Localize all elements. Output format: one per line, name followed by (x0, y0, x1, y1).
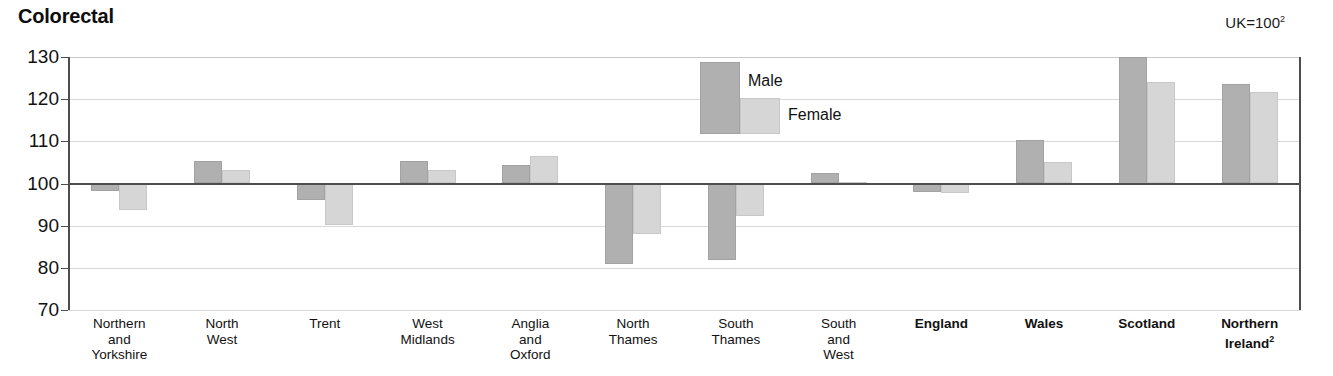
x-axis-label-line: Oxford (479, 347, 582, 363)
x-axis-label-line: and (479, 332, 582, 348)
y-axis-line-right (1299, 57, 1301, 310)
x-axis-label-line: North (171, 316, 274, 332)
x-axis-label: Wales (993, 316, 1096, 332)
plot-area (68, 57, 1301, 310)
x-axis-label: SouthandWest (787, 316, 890, 363)
x-axis-label-line: Northern (68, 316, 171, 332)
x-axis-label-line: and (68, 332, 171, 348)
gridline-80 (68, 268, 1301, 269)
x-axis-label-line: Northern (1198, 316, 1301, 332)
bar-female (530, 156, 558, 183)
y-tick-mark-100 (61, 184, 68, 185)
bar-female (325, 184, 353, 225)
bar-female (736, 184, 764, 216)
uk-baseline-text: UK=100 (1225, 14, 1280, 31)
x-axis-label: England (890, 316, 993, 332)
bar-male (91, 184, 119, 191)
bar-female (428, 170, 456, 184)
uk-baseline-superscript: 2 (1280, 14, 1285, 24)
x-axis-label-line: South (787, 316, 890, 332)
bar-female (941, 184, 969, 194)
bar-female (222, 170, 250, 183)
chart-title: Colorectal (18, 5, 114, 28)
y-tick-mark-90 (61, 226, 68, 227)
bar-male (708, 184, 736, 261)
bar-female (1147, 82, 1175, 183)
x-axis-label-line: England (890, 316, 993, 332)
x-axis-label-line: Trent (274, 316, 377, 332)
x-axis-label-line: North (582, 316, 685, 332)
y-tick-100: 100 (13, 173, 59, 195)
x-axis-label-line: West (787, 347, 890, 363)
x-axis-label-line: South (685, 316, 788, 332)
y-tick-110: 110 (13, 130, 59, 152)
x-axis-label-line: West (171, 332, 274, 348)
bar-male (502, 165, 530, 183)
x-axis-label-line: and (787, 332, 890, 348)
y-tick-90: 90 (13, 215, 59, 237)
x-axis-label-line: Yorkshire (68, 347, 171, 363)
bar-female (119, 184, 147, 211)
x-axis-labels: NorthernandYorkshireNorthWestTrentWestMi… (68, 316, 1301, 374)
bar-female (1250, 92, 1278, 184)
x-axis-label-line: West (376, 316, 479, 332)
chart-legend: Male Female (700, 58, 920, 142)
x-axis-label: NorthWest (171, 316, 274, 347)
y-tick-130: 130 (13, 46, 59, 68)
y-axis-line (68, 57, 70, 310)
bar-male (194, 161, 222, 183)
bar-female (633, 184, 661, 235)
legend-label-female: Female (788, 106, 841, 124)
bar-male (1222, 84, 1250, 184)
x-axis-label-superscript: 2 (1269, 334, 1274, 344)
x-axis-label-line: Thames (582, 332, 685, 348)
x-axis-label-line: Anglia (479, 316, 582, 332)
x-axis-label-line: Ireland2 (1198, 332, 1301, 351)
legend-swatch-male (700, 62, 740, 134)
bar-male (1016, 140, 1044, 183)
bar-male (1119, 57, 1147, 184)
gridline-110 (68, 141, 1301, 142)
x-axis-label: NorthernandYorkshire (68, 316, 171, 363)
x-axis-label: AngliaandOxford (479, 316, 582, 363)
y-tick-mark-120 (61, 99, 68, 100)
x-axis-label: WestMidlands (376, 316, 479, 347)
bar-male (913, 184, 941, 192)
x-axis-label: Scotland (1096, 316, 1199, 332)
x-axis-label: NorthernIreland2 (1198, 316, 1301, 351)
y-tick-80: 80 (13, 257, 59, 279)
legend-label-male: Male (748, 72, 783, 90)
uk-baseline-note: UK=1002 (1225, 14, 1285, 31)
bar-female (1044, 162, 1072, 184)
bar-male (297, 184, 325, 201)
bar-male (400, 161, 428, 184)
y-tick-70: 70 (13, 299, 59, 321)
y-tick-mark-70 (61, 310, 68, 311)
legend-swatch-female (740, 98, 780, 134)
y-tick-120: 120 (13, 88, 59, 110)
y-tick-mark-110 (61, 141, 68, 142)
x-axis-label-line: Wales (993, 316, 1096, 332)
y-tick-mark-80 (61, 268, 68, 269)
chart-container: Colorectal UK=1002 130 120 110 100 90 80… (0, 0, 1333, 376)
gridline-70 (68, 310, 1301, 311)
gridline-90 (68, 226, 1301, 227)
bar-male (605, 184, 633, 265)
x-axis-label: NorthThames (582, 316, 685, 347)
x-axis-label-line: Thames (685, 332, 788, 348)
x-axis-label-line: Midlands (376, 332, 479, 348)
x-axis-label: Trent (274, 316, 377, 332)
x-axis-label: SouthThames (685, 316, 788, 347)
gridline-120 (68, 99, 1301, 100)
baseline-100 (68, 183, 1301, 185)
x-axis-label-line: Scotland (1096, 316, 1199, 332)
gridline-130 (68, 57, 1301, 58)
y-tick-mark-130 (61, 57, 68, 58)
